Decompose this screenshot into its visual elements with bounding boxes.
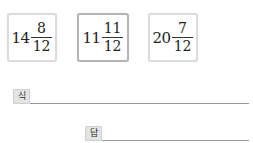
denominator: 12 xyxy=(172,38,194,54)
fraction: 11 12 xyxy=(102,21,124,54)
fraction: 8 12 xyxy=(31,21,53,54)
mixed-number: 14 8 12 xyxy=(12,21,53,54)
mixed-number: 11 11 12 xyxy=(83,21,124,54)
numerator: 11 xyxy=(102,21,124,37)
final-answer-row[interactable]: 답 xyxy=(85,126,249,141)
choice-card-2[interactable]: 11 11 12 xyxy=(77,13,129,62)
choice-card-1[interactable]: 14 8 12 xyxy=(7,13,57,62)
answer-label: 답 xyxy=(85,126,102,141)
denominator: 12 xyxy=(31,38,53,54)
problem-area: 14 8 12 11 11 12 20 7 12 xyxy=(0,0,253,143)
numerator: 8 xyxy=(35,21,48,37)
numerator: 7 xyxy=(176,21,189,37)
answer-input-line[interactable] xyxy=(102,140,249,141)
whole-part: 11 xyxy=(83,29,101,47)
choice-card-3[interactable]: 20 7 12 xyxy=(148,13,198,62)
whole-part: 20 xyxy=(153,29,171,47)
whole-part: 14 xyxy=(12,29,30,47)
fraction: 7 12 xyxy=(172,21,194,54)
mixed-number: 20 7 12 xyxy=(153,21,194,54)
formula-input-line[interactable] xyxy=(30,103,249,104)
denominator: 12 xyxy=(102,38,124,54)
formula-label: 식 xyxy=(13,89,30,104)
formula-answer-row[interactable]: 식 xyxy=(13,89,249,104)
